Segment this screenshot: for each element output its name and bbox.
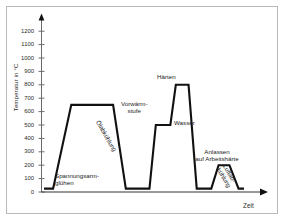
y-axis-arrow-icon: [39, 14, 45, 21]
y-tick-label-600: 600: [8, 108, 34, 114]
annotation-spannungsarmgluehen: Spannungsarm- glühen: [55, 172, 99, 186]
annotation-vorwaermstufe: Vorwärm- stufe: [121, 100, 147, 114]
y-tick-label-700: 700: [8, 95, 34, 101]
y-tick-label-500: 500: [8, 122, 34, 128]
annotation-anlassen-line1: Anlassen: [186, 148, 248, 155]
annotation-vorwaermstufe-line2: stufe: [121, 107, 147, 114]
y-tick-label-300: 300: [8, 148, 34, 154]
annotation-wasser: Wasser: [174, 119, 195, 126]
y-tick-label-1200: 1200: [8, 28, 34, 34]
y-tick-label-1000: 1000: [8, 55, 34, 61]
y-tick-label-100: 100: [8, 175, 34, 181]
y-tick-label-900: 900: [8, 68, 34, 74]
x-axis: [42, 189, 269, 196]
y-tick-label-400: 400: [8, 135, 34, 141]
annotation-spannungsarmgluehen-line1: Spannungsarm-: [55, 172, 99, 179]
y-tick-label-0: 0: [8, 189, 34, 195]
annotation-anlassen-line2: auf Arbeitshärte: [186, 155, 248, 162]
annotation-anlassen: Anlassen auf Arbeitshärte: [186, 148, 248, 162]
y-tick-label-800: 800: [8, 81, 34, 87]
x-axis-title: Zeit: [243, 202, 254, 209]
annotation-spannungsarmgluehen-line2: glühen: [55, 179, 99, 186]
y-tick-label-1100: 1100: [8, 41, 34, 47]
annotation-haerten: Härten: [157, 73, 176, 80]
x-axis-arrow-icon: [260, 189, 268, 196]
heat-treatment-chart-figure: Temperatur in °C Zeit 0 100 200 300 400 …: [0, 0, 286, 221]
annotation-vorwaermstufe-line1: Vorwärm-: [121, 100, 147, 107]
y-tick-label-200: 200: [8, 162, 34, 168]
